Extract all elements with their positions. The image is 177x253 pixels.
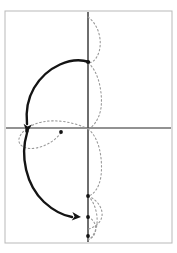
figure-container — [0, 0, 177, 253]
point-lower-upper-axis — [86, 194, 90, 198]
point-bottom-axis — [86, 234, 90, 238]
point-origin-right — [59, 130, 63, 134]
point-origin-left — [25, 129, 29, 133]
point-upper-axis — [86, 60, 90, 64]
point-lower-axis — [86, 215, 90, 219]
curve-diagram — [0, 0, 177, 253]
